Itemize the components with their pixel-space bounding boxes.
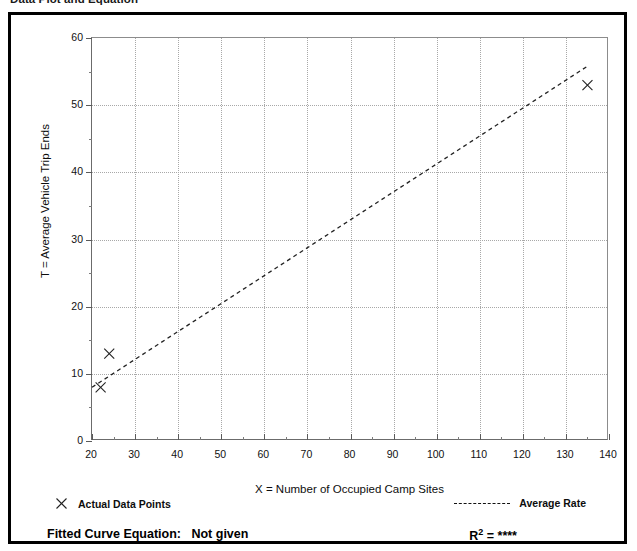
average-rate-line <box>92 66 587 387</box>
plot-area <box>91 37 608 440</box>
y-axis-tick-label: 60 <box>57 31 83 43</box>
x-axis-tick-label: 120 <box>513 448 531 460</box>
legend-row: Actual Data Points Average Rate <box>11 497 624 519</box>
legend-label-average-rate: Average Rate <box>519 497 586 509</box>
x-axis-tick-label: 110 <box>470 448 487 460</box>
x-axis-title: X = Number of Occupied Camp Sites <box>91 483 608 495</box>
r-squared-label: R <box>469 529 478 543</box>
x-axis-tick-label: 100 <box>427 448 445 460</box>
fitted-curve-equation-value: Not given <box>191 527 248 541</box>
x-axis-tick-label: 20 <box>85 448 97 460</box>
legend-item-average-rate: Average Rate <box>454 497 586 509</box>
x-axis-tick-label: 40 <box>171 448 183 460</box>
x-axis-tick-label: 90 <box>387 448 399 460</box>
page-heading: Data Plot and Equation <box>10 0 138 5</box>
x-axis-tick-label: 80 <box>344 448 356 460</box>
r-squared-equals: = <box>487 529 494 543</box>
y-axis-tick-label: 30 <box>57 233 83 245</box>
figure-frame: 2030405060708090100110120130140 01020304… <box>8 12 627 544</box>
x-axis-tick <box>609 434 610 440</box>
data-point-marker <box>104 349 114 359</box>
legend-label-actual-data-points: Actual Data Points <box>78 498 171 510</box>
y-axis-tick <box>86 441 92 442</box>
x-axis-tick-label: 30 <box>128 448 140 460</box>
fitted-curve-equation-label: Fitted Curve Equation: <box>47 527 181 541</box>
y-axis-tick-label: 10 <box>57 367 83 379</box>
y-axis-title: T = Average Vehicle Trip Ends <box>39 71 51 331</box>
average-rate-trend-line <box>92 66 587 387</box>
data-layer <box>92 38 609 441</box>
plot-wrapper: 2030405060708090100110120130140 01020304… <box>11 15 624 541</box>
dashed-line-icon <box>454 503 510 504</box>
x-axis-tick-label: 140 <box>599 448 617 460</box>
y-axis-tick-label: 0 <box>57 434 83 446</box>
y-axis-tick-label: 20 <box>57 300 83 312</box>
x-axis-tick-label: 60 <box>257 448 269 460</box>
legend-item-actual-data-points: Actual Data Points <box>55 497 171 510</box>
data-point-marker <box>582 80 592 90</box>
r-squared-stars: **** <box>498 529 517 543</box>
data-point-marker <box>96 382 106 392</box>
x-axis-tick-label: 130 <box>556 448 574 460</box>
footer-row: Fitted Curve Equation: Not given R2 = **… <box>11 527 624 551</box>
x-axis-tick-label: 70 <box>301 448 313 460</box>
actual-data-points <box>96 80 593 392</box>
x-marker-icon <box>55 497 68 510</box>
r-squared-value: R2 = **** <box>469 527 517 543</box>
x-axis-tick-label: 50 <box>214 448 226 460</box>
fitted-curve-equation: Fitted Curve Equation: Not given <box>47 527 248 541</box>
y-axis-tick-label: 50 <box>57 98 83 110</box>
r-squared-exponent: 2 <box>478 527 483 537</box>
y-axis-tick-label: 40 <box>57 165 83 177</box>
